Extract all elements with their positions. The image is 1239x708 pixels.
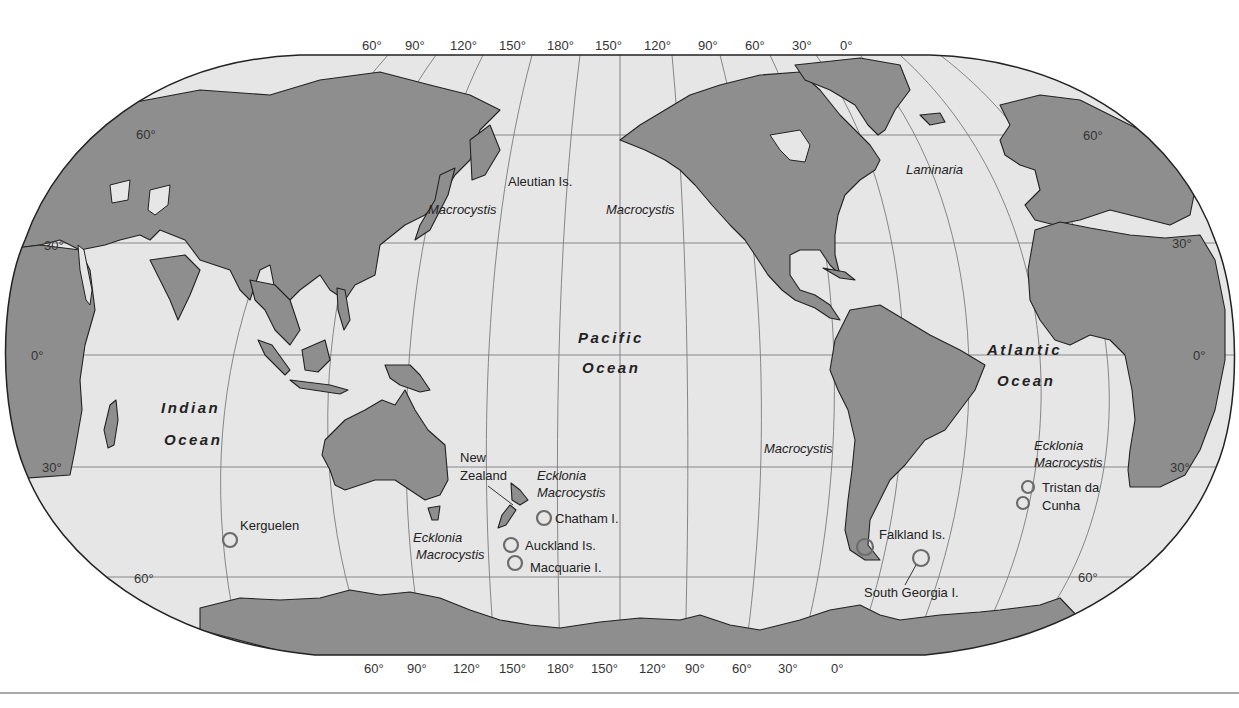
- svg-text:0°: 0°: [1193, 348, 1205, 363]
- svg-text:0°: 0°: [31, 348, 43, 363]
- svg-text:Macrocystis: Macrocystis: [416, 547, 485, 562]
- atlantic-label-2: Ocean: [997, 372, 1055, 389]
- landmass-europe: [1000, 95, 1195, 225]
- svg-text:30°: 30°: [792, 38, 812, 53]
- svg-text:Macrocystis: Macrocystis: [537, 485, 606, 500]
- svg-text:30°: 30°: [1170, 460, 1190, 475]
- svg-text:60°: 60°: [136, 127, 156, 142]
- svg-text:150°: 150°: [499, 38, 526, 53]
- svg-text:180°: 180°: [547, 661, 574, 676]
- svg-text:120°: 120°: [644, 38, 671, 53]
- svg-text:Macrocystis: Macrocystis: [764, 441, 833, 456]
- svg-text:Macrocystis: Macrocystis: [1034, 455, 1103, 470]
- svg-text:30°: 30°: [42, 460, 62, 475]
- svg-text:Tristan da: Tristan da: [1042, 480, 1100, 495]
- svg-text:60°: 60°: [745, 38, 765, 53]
- svg-text:60°: 60°: [364, 661, 384, 676]
- kelp-distribution-map: 60° 90° 120° 150° 180° 150° 120° 90° 60°…: [0, 0, 1239, 708]
- svg-text:Zealand: Zealand: [460, 468, 507, 483]
- svg-text:150°: 150°: [591, 661, 618, 676]
- bottom-longitude-labels: 60° 90° 120° 150° 180° 150° 120° 90° 60°…: [364, 661, 843, 676]
- svg-text:Ecklonia: Ecklonia: [413, 530, 462, 545]
- top-longitude-labels: 60° 90° 120° 150° 180° 150° 120° 90° 60°…: [362, 38, 852, 53]
- svg-text:0°: 0°: [840, 38, 852, 53]
- svg-text:Macrocystis: Macrocystis: [428, 202, 497, 217]
- svg-text:Kerguelen: Kerguelen: [240, 518, 299, 533]
- svg-text:90°: 90°: [685, 661, 705, 676]
- pacific-label-2: Ocean: [582, 359, 640, 376]
- svg-text:60°: 60°: [362, 38, 382, 53]
- svg-text:120°: 120°: [450, 38, 477, 53]
- svg-text:30°: 30°: [44, 238, 64, 253]
- svg-text:150°: 150°: [595, 38, 622, 53]
- svg-text:Ecklonia: Ecklonia: [1034, 438, 1083, 453]
- svg-text:Macrocystis: Macrocystis: [606, 202, 675, 217]
- svg-text:120°: 120°: [453, 661, 480, 676]
- svg-text:60°: 60°: [1078, 570, 1098, 585]
- svg-text:60°: 60°: [134, 571, 154, 586]
- svg-text:Ecklonia: Ecklonia: [537, 468, 586, 483]
- svg-text:90°: 90°: [407, 661, 427, 676]
- svg-text:120°: 120°: [639, 661, 666, 676]
- svg-text:Laminaria: Laminaria: [906, 162, 963, 177]
- svg-text:Falkland Is.: Falkland Is.: [879, 527, 945, 542]
- indian-label: Indian: [161, 399, 220, 416]
- svg-text:Chatham I.: Chatham I.: [555, 511, 619, 526]
- svg-text:Auckland Is.: Auckland Is.: [525, 538, 596, 553]
- svg-text:150°: 150°: [499, 661, 526, 676]
- svg-text:Macquarie I.: Macquarie I.: [530, 560, 602, 575]
- svg-text:Cunha: Cunha: [1042, 498, 1081, 513]
- atlantic-label: Atlantic: [986, 341, 1062, 358]
- svg-text:180°: 180°: [547, 38, 574, 53]
- svg-text:60°: 60°: [732, 661, 752, 676]
- svg-text:30°: 30°: [1172, 236, 1192, 251]
- svg-text:Aleutian Is.: Aleutian Is.: [508, 174, 572, 189]
- svg-text:30°: 30°: [778, 661, 798, 676]
- svg-text:90°: 90°: [698, 38, 718, 53]
- pacific-label: Pacific: [578, 329, 644, 346]
- svg-text:South Georgia I.: South Georgia I.: [864, 585, 959, 600]
- indian-label-2: Ocean: [164, 431, 222, 448]
- svg-text:0°: 0°: [831, 661, 843, 676]
- svg-text:New: New: [460, 450, 487, 465]
- svg-text:90°: 90°: [405, 38, 425, 53]
- svg-text:60°: 60°: [1083, 128, 1103, 143]
